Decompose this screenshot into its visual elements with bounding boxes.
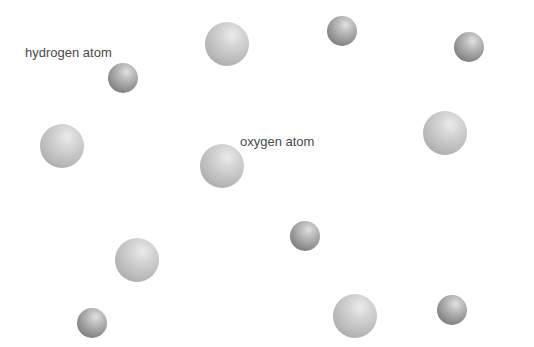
oxygen-atom-sphere bbox=[423, 111, 467, 155]
diagram-canvas: hydrogen atom oxygen atom bbox=[0, 0, 534, 347]
oxygen-atom-label: oxygen atom bbox=[240, 135, 314, 148]
hydrogen-atom-sphere bbox=[77, 308, 107, 338]
oxygen-atom-sphere bbox=[333, 294, 377, 338]
hydrogen-atom-sphere bbox=[108, 63, 138, 93]
oxygen-atom-sphere bbox=[200, 144, 244, 188]
hydrogen-atom-sphere bbox=[454, 32, 484, 62]
oxygen-atom-sphere bbox=[40, 124, 84, 168]
hydrogen-atom-sphere bbox=[290, 221, 320, 251]
hydrogen-atom-sphere bbox=[327, 16, 357, 46]
hydrogen-atom-label: hydrogen atom bbox=[25, 46, 112, 59]
hydrogen-atom-sphere bbox=[437, 295, 467, 325]
oxygen-atom-sphere bbox=[115, 238, 159, 282]
oxygen-atom-sphere bbox=[205, 22, 249, 66]
